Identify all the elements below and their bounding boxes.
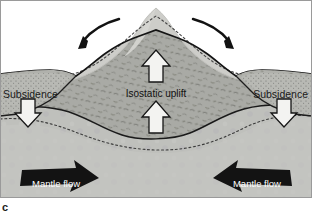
cross-section-illustration [0, 0, 312, 211]
panel-letter-label: c [2, 201, 8, 211]
isostatic-uplift-diagram: Subsidence Subsidence Isostatic uplift M… [0, 0, 312, 211]
